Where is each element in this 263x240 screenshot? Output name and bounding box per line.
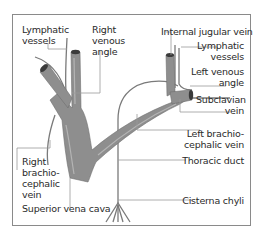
left-internal-jugular-vein xyxy=(166,55,175,96)
left-ij-lumen xyxy=(166,53,174,57)
label-right-brachiocephalic-vein: Right brachio- cephalic vein xyxy=(22,156,60,200)
label-thoracic-duct: Thoracic duct xyxy=(168,155,244,166)
label-left-venous-angle: Left venous angle xyxy=(190,66,244,88)
label-lymphatic-vessels-right: Lymphatic vessels xyxy=(196,40,244,62)
label-superior-vena-cava: Superior vena cava xyxy=(22,203,110,214)
left-subclavian-vein xyxy=(170,90,192,104)
left-subclavian-lumen xyxy=(189,90,193,100)
label-internal-jugular-vein: Internal jugular vein xyxy=(161,26,253,37)
right-ij-lumen xyxy=(71,50,80,54)
label-cisterna-chyli: Cisterna chyli xyxy=(168,195,244,206)
label-left-brachiocephalic-vein: Left brachio- cephalic vein xyxy=(178,128,244,150)
label-subclavian-vein: Subclavian vein xyxy=(196,94,244,116)
label-lymphatic-vessels-left: Lymphatic vessels xyxy=(22,24,69,46)
label-right-venous-angle: Right venous angle xyxy=(92,24,125,57)
